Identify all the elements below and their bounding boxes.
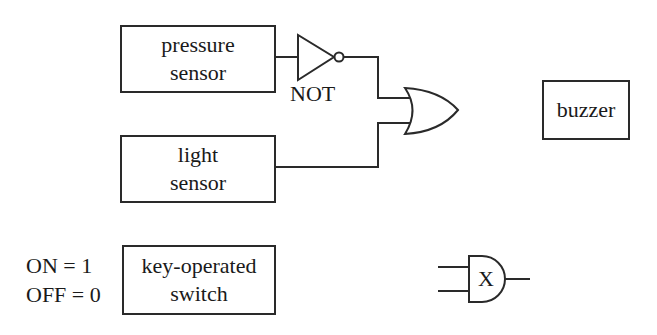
- not-gate-bubble: [335, 53, 344, 62]
- or-gate-icon: [405, 88, 458, 134]
- x-gate-label: X: [478, 265, 494, 293]
- key-switch-line1: key-operated: [142, 252, 257, 280]
- key-switch-line2: switch: [170, 280, 227, 308]
- switch-on-state: ON = 1: [26, 252, 92, 280]
- not-gate-label: NOT: [290, 80, 335, 108]
- not-gate-icon: [298, 35, 334, 80]
- pressure-sensor-block: pressure sensor: [120, 25, 276, 93]
- wire-not-to-or: [344, 57, 412, 98]
- switch-off-state: OFF = 0: [26, 281, 101, 309]
- light-sensor-line2: sensor: [170, 169, 226, 197]
- key-switch-block: key-operated switch: [122, 245, 276, 315]
- buzzer-label: buzzer: [557, 96, 616, 124]
- light-sensor-line1: light: [178, 141, 218, 169]
- wire-light-to-or: [275, 123, 412, 167]
- pressure-sensor-line1: pressure: [161, 31, 234, 59]
- buzzer-block: buzzer: [542, 80, 630, 140]
- light-sensor-block: light sensor: [120, 135, 276, 203]
- pressure-sensor-line2: sensor: [170, 59, 226, 87]
